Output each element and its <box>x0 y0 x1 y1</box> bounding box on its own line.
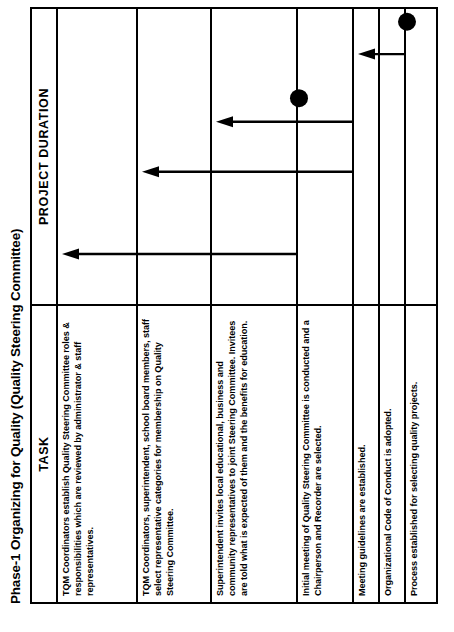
table-row: Process established for selecting qualit… <box>406 9 437 602</box>
task-cell: Meeting guidelines are established. <box>354 304 378 602</box>
duration-cell <box>298 9 352 304</box>
header-cell-task: TASK <box>32 304 56 602</box>
task-cell: Organizational Code of Conduct is adopte… <box>380 304 404 602</box>
table-row: TQM Coordinators establish Quality Steer… <box>58 9 138 602</box>
task-description: Meeting guidelines are established. <box>357 445 369 596</box>
task-cell: TQM Coordinators, superintendent, school… <box>138 304 210 602</box>
header-label-task: TASK <box>37 436 51 472</box>
task-cell: Superintendent invites local educational… <box>212 304 296 602</box>
duration-cell <box>212 9 296 304</box>
task-description: Organizational Code of Conduct is adopte… <box>383 409 395 596</box>
duration-cell <box>354 9 378 304</box>
header-label-duration: PROJECT DURATION <box>37 88 51 225</box>
gantt-chart-frame: TASK PROJECT DURATION TQM Coordinators e… <box>30 7 438 604</box>
table-row: Initial meeting of Quality Steering Comm… <box>298 9 354 602</box>
task-cell: Process established for selecting qualit… <box>406 304 437 602</box>
task-description: TQM Coordinators establish Quality Steer… <box>61 311 96 596</box>
table-row: TQM Coordinators, superintendent, school… <box>138 9 212 602</box>
table-row: Superintendent invites local educational… <box>212 9 298 602</box>
header-cell-duration: PROJECT DURATION <box>32 9 56 304</box>
duration-cell <box>58 9 136 304</box>
task-description: Superintendent invites local educational… <box>215 311 250 596</box>
task-description: Process established for selecting qualit… <box>409 382 421 596</box>
rotated-figure-stage: Phase-1 Organizing for Quality (Quality … <box>0 0 454 632</box>
table-row: Meeting guidelines are established. <box>354 9 380 602</box>
duration-cell <box>380 9 404 304</box>
figure-title: Phase-1 Organizing for Quality (Quality … <box>8 229 23 604</box>
table-row: Organizational Code of Conduct is adopte… <box>380 9 406 602</box>
table-header-row: TASK PROJECT DURATION <box>32 9 58 602</box>
task-cell: TQM Coordinators establish Quality Steer… <box>58 304 136 602</box>
duration-cell <box>406 9 437 304</box>
task-cell: Initial meeting of Quality Steering Comm… <box>298 304 352 602</box>
duration-cell <box>138 9 210 304</box>
gantt-body-grid: TQM Coordinators establish Quality Steer… <box>58 9 436 602</box>
task-description: TQM Coordinators, superintendent, school… <box>141 311 176 596</box>
task-description: Initial meeting of Quality Steering Comm… <box>301 311 325 596</box>
